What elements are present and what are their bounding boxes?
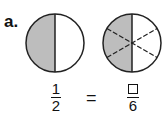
denominator: 2 xyxy=(51,99,61,113)
sixths-circle xyxy=(102,12,162,74)
answer-box[interactable] xyxy=(128,84,138,94)
numerator: 1 xyxy=(51,82,61,96)
denominator: 6 xyxy=(127,99,139,113)
fraction-one-half: 1 2 xyxy=(51,82,61,113)
fraction-blank-sixths: 6 xyxy=(127,82,139,113)
equals-sign: = xyxy=(86,88,97,109)
halves-circle xyxy=(25,12,85,74)
problem-label: a. xyxy=(4,12,18,32)
